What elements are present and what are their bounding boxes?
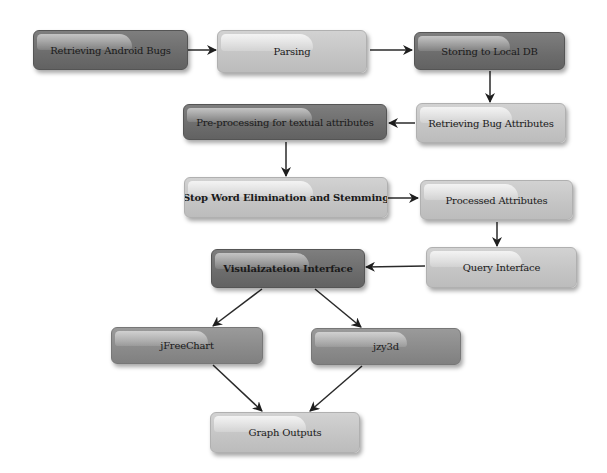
node-label: Retrieving Android Bugs [50,45,171,56]
node-query-interface: Query Interface [426,247,577,288]
edge-query-to-visualization [366,266,425,267]
node-preprocessing: Pre-processing for textual attributes [183,104,387,140]
edge-jfreechart-to-graph-outputs [213,365,262,411]
node-label: Visulaizateion Interface [223,263,352,274]
node-jzy3d: jzy3d [311,328,461,365]
node-label: Retrieving Bug Attributes [428,118,554,129]
node-retrieving-bug-attributes: Retrieving Bug Attributes [416,103,566,143]
node-label: Processed Attributes [446,195,548,206]
node-label: jFreeChart [160,340,214,351]
node-label: jzy3d [373,341,399,352]
node-label: Stop Word Elimination and Stemming [184,192,388,203]
edge-visualization-to-jfreechart [213,289,262,326]
node-label: Storing to Local DB [441,46,537,57]
node-graph-outputs: Graph Outputs [210,412,360,453]
node-label: Query Interface [463,262,540,273]
node-visualization-interface: Visulaizateion Interface [211,249,365,288]
node-parsing: Parsing [217,30,367,73]
node-stop-word-elimination: Stop Word Elimination and Stemming [184,177,388,218]
node-jfreechart: jFreeChart [111,327,263,364]
node-processed-attributes: Processed Attributes [420,180,573,220]
node-label: Graph Outputs [249,427,322,438]
node-retrieving-android-bugs: Retrieving Android Bugs [33,30,188,70]
edge-visualization-to-jzy3d [315,289,361,327]
flowchart-canvas: Retrieving Android Bugs Parsing Storing … [0,0,607,473]
node-label: Pre-processing for textual attributes [196,117,374,128]
node-label: Parsing [274,46,311,57]
node-storing-local-db: Storing to Local DB [414,32,565,70]
edge-jzy3d-to-graph-outputs [310,366,362,411]
